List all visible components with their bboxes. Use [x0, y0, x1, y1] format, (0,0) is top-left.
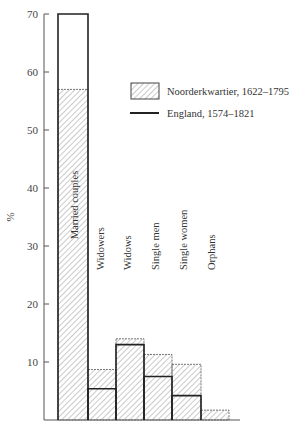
bar-chart: 10203040506070 % Married couplesWidowers… [0, 0, 308, 428]
bar-noorderkwartier [88, 370, 116, 420]
category-label: Single women [178, 209, 189, 270]
bar-noorderkwartier [172, 364, 201, 420]
category-label: Widows [122, 235, 133, 270]
category-label: Married couples [69, 171, 80, 240]
category-label: Single men [150, 222, 161, 270]
y-tick-label: 50 [27, 124, 39, 136]
bar-noorderkwartier [144, 354, 172, 420]
y-tick-label: 40 [27, 182, 39, 194]
legend-item-noorderkwartier: Noorderkwartier, 1622–1795 [131, 83, 289, 99]
legend-item-england: England, 1574–1821 [130, 108, 255, 119]
y-tick-label: 70 [27, 8, 39, 20]
y-tick-label: 20 [27, 298, 39, 310]
svg-text:England, 1574–1821: England, 1574–1821 [167, 108, 255, 119]
legend: Noorderkwartier, 1622–1795 England, 1574… [130, 83, 289, 119]
category-label: Widowers [95, 227, 106, 270]
y-tick-label: 60 [27, 66, 39, 78]
y-tick-label: 30 [27, 240, 39, 252]
category-label: Orphans [206, 234, 217, 270]
hatch-swatch-icon [131, 83, 159, 99]
category-labels: Married couplesWidowersWidowsSingle menS… [69, 171, 217, 270]
bar-noorderkwartier [201, 410, 229, 420]
bar-noorderkwartier [116, 339, 144, 420]
bar-noorderkwartier [58, 89, 88, 420]
y-tick-label: 10 [27, 356, 39, 368]
svg-text:Noorderkwartier, 1622–1795: Noorderkwartier, 1622–1795 [167, 86, 289, 97]
y-axis-label: % [4, 212, 16, 221]
